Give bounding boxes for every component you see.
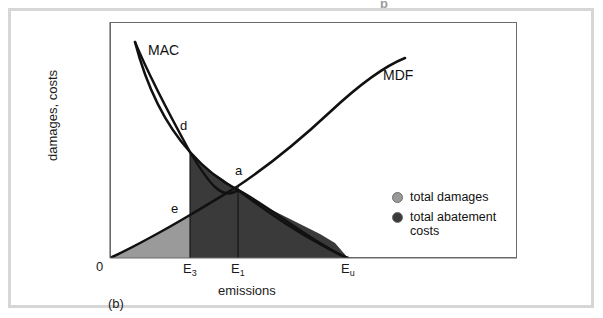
region-total-abatement-costs xyxy=(190,152,348,258)
legend-item-total-abatement-costs: total abatement costs xyxy=(392,210,516,238)
figure-root: p xyxy=(0,0,603,318)
x-axis-title: emissions xyxy=(218,283,276,298)
legend-swatch-total-abatement-costs xyxy=(392,212,403,223)
panel-label: (b) xyxy=(108,296,124,311)
tick-label-e3: E3 xyxy=(183,261,197,276)
origin-label: 0 xyxy=(96,259,103,274)
legend-swatch-total-damages xyxy=(392,192,403,203)
point-label-e: e xyxy=(171,201,178,216)
curve-label-mac: MAC xyxy=(148,42,179,58)
legend-label-total-damages: total damages xyxy=(410,190,489,204)
tick-label-e1: E1 xyxy=(231,261,245,276)
legend-label-total-abatement-costs: total abatement costs xyxy=(410,210,516,238)
chart-canvas xyxy=(0,0,603,318)
curve-label-mdf: MDF xyxy=(383,67,413,83)
point-label-d: d xyxy=(180,118,187,133)
tick-label-eu: Eu xyxy=(341,261,355,276)
legend-item-total-damages: total damages xyxy=(392,190,516,204)
chart-legend: total damages total abatement costs xyxy=(392,190,516,244)
point-label-a: a xyxy=(235,163,242,178)
y-axis-title: damages, costs xyxy=(45,56,60,176)
